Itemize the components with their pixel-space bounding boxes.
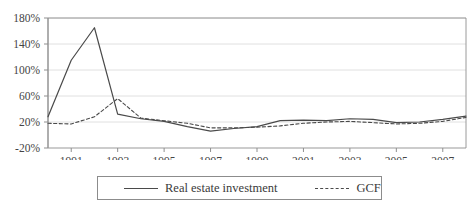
y-axis-tick-label: 20% — [19, 116, 41, 128]
legend-swatch-solid-line-icon — [124, 188, 158, 189]
series-line-real-estate-investment — [48, 28, 466, 131]
line-chart-svg: -20%20%60%100%140%180% 19911993199519971… — [0, 0, 474, 160]
legend-item-gcf: GCF — [315, 177, 380, 199]
x-axis-tick-label: 1993 — [106, 155, 129, 160]
y-axis-tick-label: 60% — [19, 90, 41, 102]
x-axis-tick-label: 2003 — [338, 155, 361, 160]
legend-item-real-estate-investment: Real estate investment — [124, 177, 277, 199]
data-series-lines — [48, 28, 466, 131]
chart-legend: Real estate investment GCF — [97, 176, 382, 200]
series-line-gcf — [48, 99, 466, 128]
y-axis-tick-label: 100% — [13, 64, 40, 76]
x-axis-tick-label: 2001 — [292, 155, 315, 160]
x-axis-ticks — [71, 148, 443, 152]
x-axis-tick-labels: 199119931995199719992001200320052007 — [60, 155, 455, 160]
x-axis-tick-label: 2005 — [385, 155, 408, 160]
plot-frame — [48, 18, 466, 148]
x-axis-tick-label: 1997 — [199, 155, 222, 160]
x-axis-tick-label: 1995 — [153, 155, 176, 160]
legend-swatch-dashed-line-icon — [315, 188, 349, 189]
legend-label-real-estate-investment: Real estate investment — [165, 182, 277, 195]
legend-label-gcf: GCF — [356, 182, 380, 195]
plot-area: -20%20%60%100%140%180% 19911993199519971… — [0, 0, 474, 160]
y-axis-tick-labels: -20%20%60%100%140%180% — [13, 12, 40, 154]
x-axis-tick-label: 2007 — [431, 155, 454, 160]
y-axis-tick-label: -20% — [15, 142, 40, 154]
y-axis-tick-label: 140% — [13, 38, 40, 50]
x-axis-tick-label: 1999 — [246, 155, 269, 160]
x-axis-tick-label: 1991 — [60, 155, 83, 160]
gridlines — [48, 18, 466, 122]
y-axis-tick-label: 180% — [13, 12, 40, 24]
chart-figure: -20%20%60%100%140%180% 19911993199519971… — [0, 0, 474, 202]
